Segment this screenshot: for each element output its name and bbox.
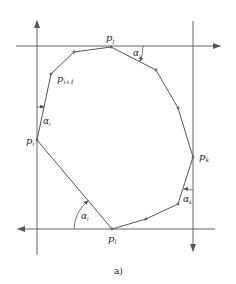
label-p-l: pl xyxy=(108,233,116,245)
label-p-i: pi xyxy=(26,135,34,147)
label-p-k: pk xyxy=(199,151,209,163)
label-p-i1: pi+1 xyxy=(57,73,74,85)
label-alpha-k: αk xyxy=(183,194,192,205)
convex-hull-diagram: pj pi+1 pi pk pl αj αi αl αk a) xyxy=(0,0,236,284)
label-alpha-l: αl xyxy=(81,211,89,222)
angle-arc-alpha-k xyxy=(184,189,193,190)
figure-caption: a) xyxy=(114,266,123,276)
label-alpha-j: αj xyxy=(133,48,141,60)
label-p-j: pj xyxy=(106,32,114,45)
label-alpha-i: αi xyxy=(43,116,51,127)
